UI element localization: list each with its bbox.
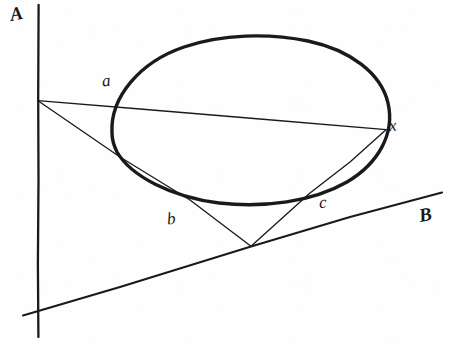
- chord-pole-to-x: [38, 101, 386, 130]
- vertical-line-A: [38, 5, 39, 337]
- slanted-line-B: [23, 193, 442, 316]
- label-a: a: [101, 72, 111, 90]
- label-b: b: [166, 210, 176, 228]
- figure-drawing: [0, 0, 452, 358]
- label-c: c: [318, 194, 327, 212]
- conic-ellipse: [112, 36, 390, 205]
- chord-pole-to-apex: [38, 101, 251, 246]
- figure-canvas: A B a b c x: [0, 0, 452, 358]
- chord-apex-to-x: [251, 130, 386, 246]
- label-x: x: [388, 117, 397, 135]
